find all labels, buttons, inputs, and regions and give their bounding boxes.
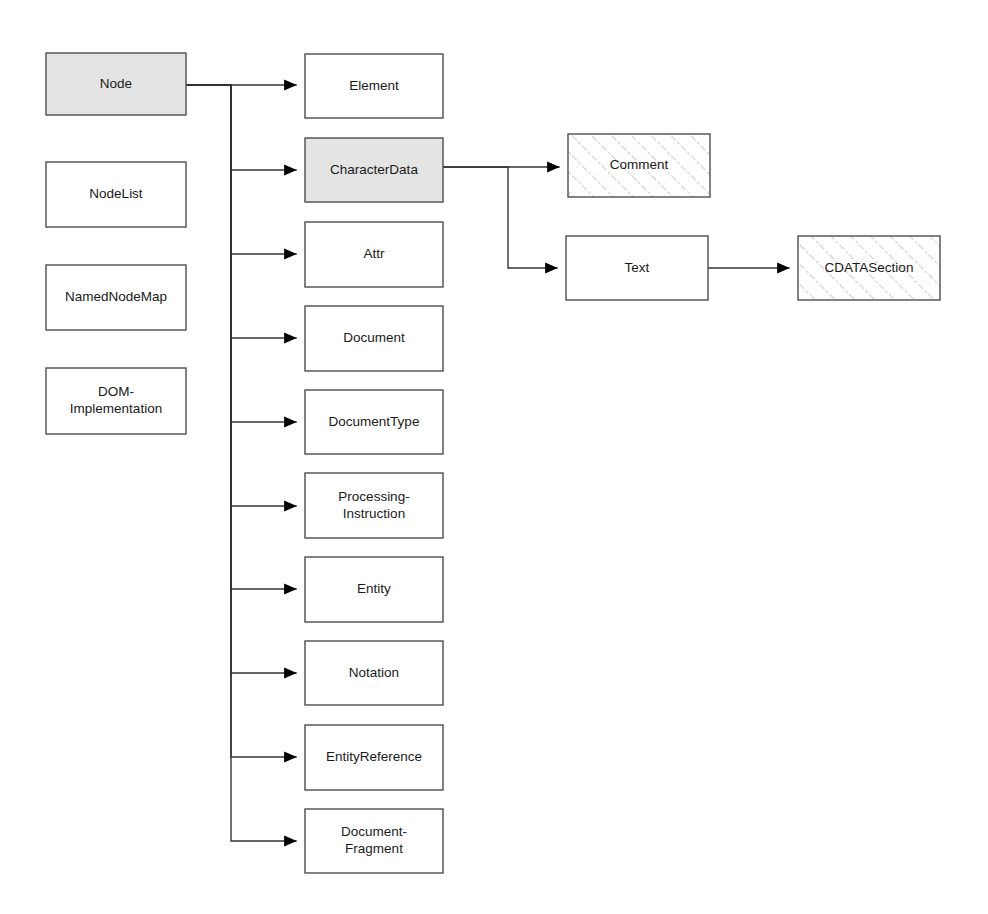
node-box-document[interactable]: Document: [305, 306, 443, 371]
node-layer: NodeNodeListNamedNodeMapDOM-Implementati…: [46, 53, 940, 873]
node-label-text: Text: [625, 260, 650, 275]
node-label-domimplementation: DOM-: [98, 384, 134, 399]
node-box-processinginstruction[interactable]: Processing-Instruction: [305, 473, 443, 538]
edge-node-to-entity: [186, 85, 296, 589]
node-box-attr[interactable]: Attr: [305, 222, 443, 287]
class-hierarchy-diagram: NodeNodeListNamedNodeMapDOM-Implementati…: [0, 0, 988, 914]
diagram-canvas: NodeNodeListNamedNodeMapDOM-Implementati…: [0, 0, 988, 914]
node-label-characterdata: CharacterData: [330, 162, 418, 177]
node-label-entityreference: EntityReference: [326, 749, 422, 764]
node-label-nodelist: NodeList: [89, 186, 143, 201]
node-label-node: Node: [100, 76, 132, 91]
node-label-comment: Comment: [610, 157, 669, 172]
node-label-notation: Notation: [349, 665, 399, 680]
edge-path: [443, 167, 557, 268]
edge-path: [186, 85, 296, 673]
edge-node-to-document: [186, 85, 296, 338]
node-label-documentfragment: Fragment: [345, 841, 403, 856]
node-label-namednodemap: NamedNodeMap: [65, 289, 167, 304]
edge-path: [186, 85, 296, 338]
node-box-nodelist[interactable]: NodeList: [46, 162, 186, 227]
node-box-text[interactable]: Text: [566, 236, 708, 300]
edge-path: [186, 85, 296, 841]
node-box-notation[interactable]: Notation: [305, 641, 443, 705]
edge-node-to-documentfragment: [186, 85, 296, 841]
node-label-domimplementation: Implementation: [70, 401, 162, 416]
node-box-namednodemap[interactable]: NamedNodeMap: [46, 265, 186, 330]
node-box-characterdata[interactable]: CharacterData: [305, 138, 443, 202]
edge-path: [186, 85, 296, 506]
node-label-element: Element: [349, 78, 399, 93]
edge-path: [186, 85, 296, 170]
node-box-node[interactable]: Node: [46, 53, 186, 115]
edge-path: [186, 85, 296, 589]
node-box-entity[interactable]: Entity: [305, 557, 443, 622]
edge-node-to-entityreference: [186, 85, 296, 757]
edge-layer: [186, 85, 789, 841]
node-label-entity: Entity: [357, 581, 391, 596]
node-box-entityreference[interactable]: EntityReference: [305, 725, 443, 790]
edge-node-to-processinginstruction: [186, 85, 296, 506]
node-label-documentfragment: Document-: [341, 824, 407, 839]
node-label-cdatasection: CDATASection: [825, 260, 914, 275]
node-box-documenttype[interactable]: DocumentType: [305, 390, 443, 454]
node-box-comment[interactable]: Comment: [568, 134, 710, 197]
node-box-documentfragment[interactable]: Document-Fragment: [305, 809, 443, 873]
node-box-cdatasection[interactable]: CDATASection: [798, 236, 940, 300]
node-label-processinginstruction: Instruction: [343, 506, 405, 521]
node-label-documenttype: DocumentType: [329, 414, 420, 429]
edge-node-to-characterdata: [186, 85, 296, 170]
node-box-domimplementation[interactable]: DOM-Implementation: [46, 368, 186, 434]
node-label-attr: Attr: [363, 246, 385, 261]
node-box-element[interactable]: Element: [305, 54, 443, 118]
edge-characterdata-to-text: [443, 167, 557, 268]
node-label-document: Document: [343, 330, 405, 345]
edge-node-to-notation: [186, 85, 296, 673]
edge-path: [186, 85, 296, 757]
node-label-processinginstruction: Processing-: [338, 489, 409, 504]
